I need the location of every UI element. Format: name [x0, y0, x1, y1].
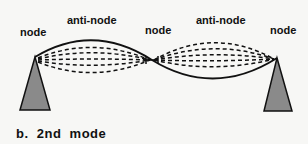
antinode-label-left: anti-node: [67, 14, 117, 26]
node-label-middle: node: [145, 24, 171, 36]
figure-caption: b. 2nd mode: [16, 126, 106, 141]
node-label-right: node: [270, 24, 296, 36]
antinode-label-right: anti-node: [196, 14, 246, 26]
right-support: [264, 58, 292, 111]
left-solid-arc: [35, 40, 152, 60]
vibration-diagram: [0, 0, 308, 144]
right-dashed-arcs: [154, 43, 274, 67]
node-label-left: node: [20, 26, 46, 38]
left-dashed-arcs: [38, 47, 150, 72]
